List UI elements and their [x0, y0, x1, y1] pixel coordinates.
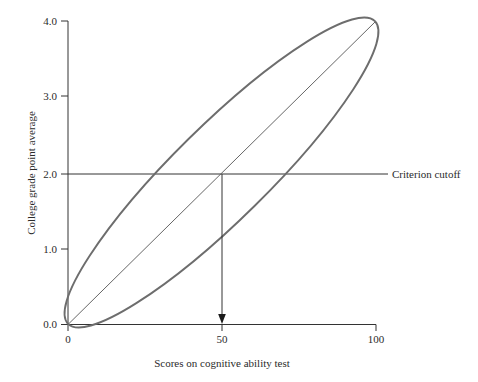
x-axis-title: Scores on cognitive ability test [154, 357, 290, 369]
y-axis-title: College grade point average [25, 111, 37, 235]
correlation-ellipse-figure: Criterion cutoff 4.0 3.0 2.0 1.0 0.0 0 5… [0, 0, 478, 382]
predictor-cutoff-arrow [218, 174, 226, 324]
x-tick-label-50: 50 [217, 333, 229, 345]
x-axis-ticks [68, 325, 376, 332]
x-tick-label-0: 0 [65, 333, 71, 345]
chart-canvas: Criterion cutoff 4.0 3.0 2.0 1.0 0.0 0 5… [0, 0, 478, 382]
y-tick-label-3: 3.0 [43, 90, 57, 102]
y-tick-label-0: 0.0 [43, 318, 57, 330]
y-axis-ticks [61, 21, 68, 325]
y-tick-label-2: 2.0 [43, 168, 57, 180]
y-tick-label-4: 4.0 [43, 15, 57, 27]
criterion-cutoff-label: Criterion cutoff [392, 168, 461, 180]
y-tick-label-1: 1.0 [43, 243, 57, 255]
x-tick-label-100: 100 [368, 333, 385, 345]
arrow-head [218, 314, 226, 324]
